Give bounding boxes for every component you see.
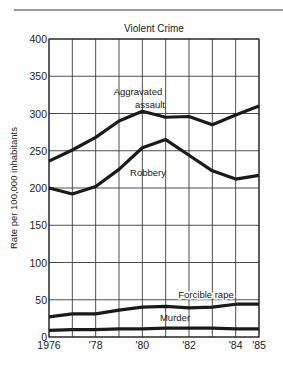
x-tick-label: '78 xyxy=(89,339,103,351)
series-line xyxy=(49,328,259,330)
x-tick-label: 1976 xyxy=(37,339,61,351)
series-label: Aggravated xyxy=(114,86,163,97)
y-tick-label: 50 xyxy=(35,294,47,306)
series-label: Forcible rape xyxy=(178,289,233,300)
chart-title: Violent Crime xyxy=(124,23,184,34)
y-tick-label: 150 xyxy=(29,219,47,231)
series-label: Murder xyxy=(160,312,190,323)
series-line xyxy=(49,106,259,161)
series-label: Robbery xyxy=(130,167,166,178)
violent-crime-chart: Violent Crime 050100150200250300350400 1… xyxy=(0,0,283,372)
x-axis-ticks: 1976'78'80'82'84'85 xyxy=(37,339,266,351)
y-tick-label: 100 xyxy=(29,257,47,269)
y-axis-ticks: 050100150200250300350400 xyxy=(29,33,47,343)
y-tick-label: 400 xyxy=(29,33,47,45)
y-tick-label: 350 xyxy=(29,70,47,82)
x-tick-label: '84 xyxy=(229,339,243,351)
y-axis-label: Rate per 100,000 inhabitants xyxy=(8,127,19,249)
y-tick-label: 200 xyxy=(29,182,47,194)
x-tick-label: '82 xyxy=(182,339,196,351)
y-tick-label: 300 xyxy=(29,108,47,120)
series-line xyxy=(49,304,259,317)
x-tick-label: '80 xyxy=(135,339,149,351)
y-tick-label: 250 xyxy=(29,145,47,157)
series-label: assault xyxy=(135,99,165,110)
x-tick-label: '85 xyxy=(252,339,266,351)
